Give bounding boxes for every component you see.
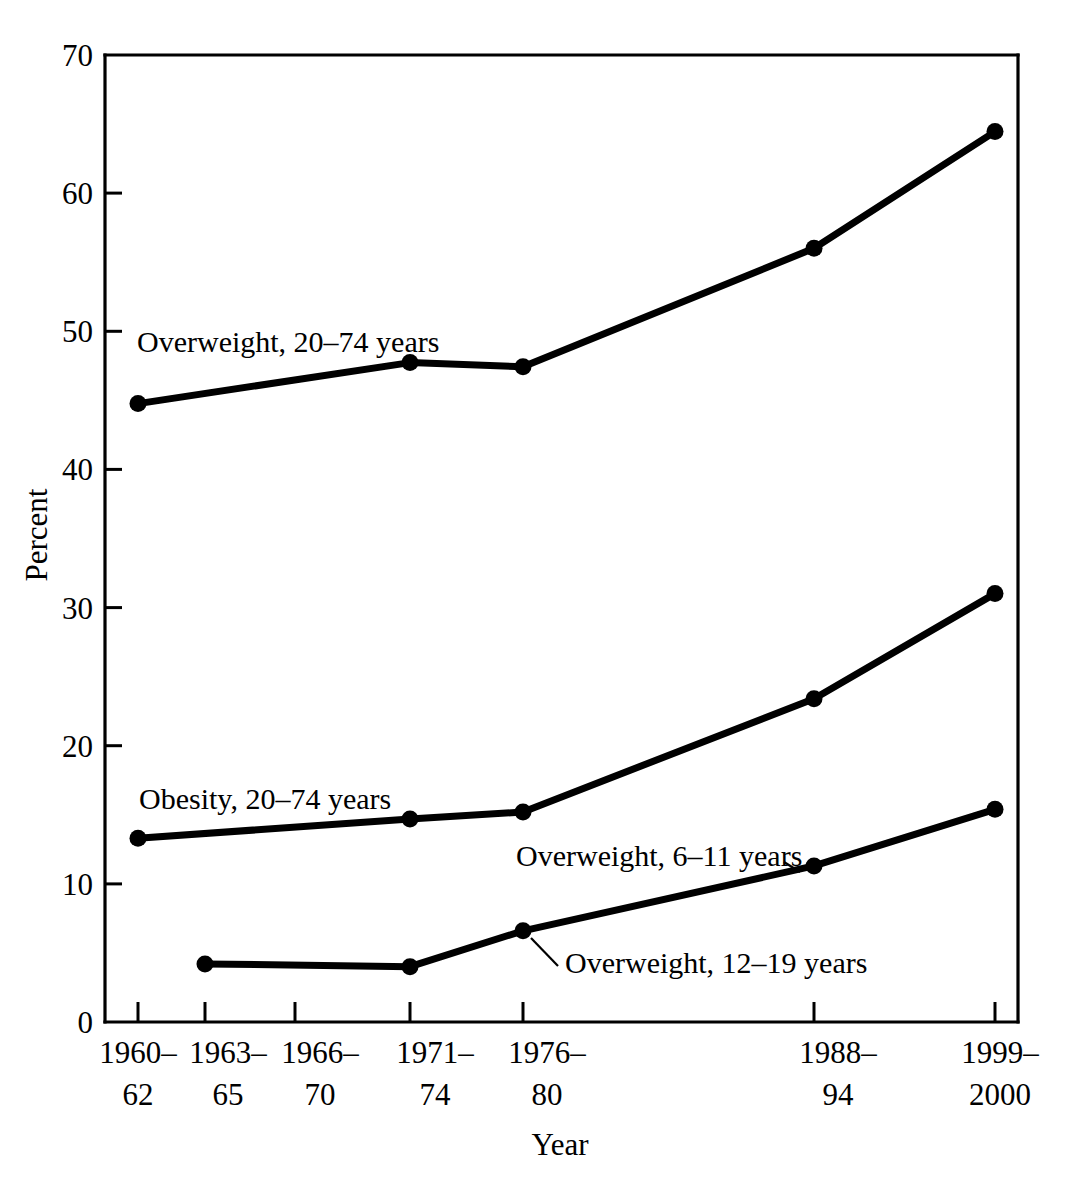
data-point	[515, 922, 532, 939]
figure-container: 70 60 50 40 30 20 10 0 Percent 1960– 62 …	[0, 0, 1067, 1177]
x-tick-label-line1: 1976–	[508, 1035, 586, 1070]
data-point	[806, 690, 823, 707]
x-tick-label-line2: 62	[123, 1077, 154, 1112]
x-tick-label-line2: 74	[420, 1077, 452, 1112]
x-tick-labels: 1960– 62 1963– 65 1966– 70 1971– 74 1976…	[99, 1035, 1039, 1112]
x-tick-label-line1: 1960–	[99, 1035, 177, 1070]
data-point	[197, 955, 214, 972]
data-point	[987, 123, 1004, 140]
y-tick-label: 50	[62, 314, 93, 349]
y-tick-marks	[105, 193, 122, 884]
x-tick-label-line1: 1966–	[281, 1035, 359, 1070]
series-label-obesity-20-74: Obesity, 20–74 years	[139, 782, 391, 815]
data-point	[987, 585, 1004, 602]
data-point	[402, 810, 419, 827]
x-tick-label-line1: 1999–	[961, 1035, 1039, 1070]
y-tick-label: 60	[62, 176, 93, 211]
x-axis-title: Year	[531, 1127, 589, 1162]
x-tick-label-line2: 70	[305, 1077, 336, 1112]
line-chart: 70 60 50 40 30 20 10 0 Percent 1960– 62 …	[0, 0, 1067, 1177]
series-label-overweight-6-11: Overweight, 6–11 years	[516, 839, 802, 872]
data-point	[515, 804, 532, 821]
data-point	[987, 801, 1004, 818]
data-point	[515, 358, 532, 375]
data-point	[806, 240, 823, 257]
data-point	[402, 958, 419, 975]
y-tick-label: 30	[62, 591, 93, 626]
series-overweight-20-74	[130, 123, 1004, 412]
x-tick-label-line2: 80	[532, 1077, 563, 1112]
y-tick-label: 0	[78, 1005, 94, 1040]
y-tick-labels: 70 60 50 40 30 20 10 0	[62, 38, 93, 1040]
data-point	[130, 395, 147, 412]
y-tick-label: 70	[62, 38, 93, 73]
y-tick-label: 10	[62, 867, 93, 902]
y-tick-label: 20	[62, 729, 93, 764]
x-tick-label-line1: 1971–	[396, 1035, 474, 1070]
leader-line-overweight-12-19	[531, 938, 558, 966]
series-label-overweight-12-19: Overweight, 12–19 years	[565, 946, 867, 979]
plot-frame	[105, 55, 1018, 1022]
x-tick-label-line1: 1988–	[799, 1035, 877, 1070]
y-axis-title: Percent	[19, 488, 54, 581]
x-tick-label-line2: 65	[213, 1077, 244, 1112]
data-point	[130, 830, 147, 847]
x-tick-label-line2: 94	[823, 1077, 855, 1112]
x-tick-marks	[138, 1002, 995, 1022]
x-tick-label-line2: 2000	[969, 1077, 1031, 1112]
x-tick-label-line1: 1963–	[189, 1035, 267, 1070]
data-point	[806, 857, 823, 874]
y-tick-label: 40	[62, 452, 93, 487]
series-label-overweight-20-74: Overweight, 20–74 years	[137, 325, 439, 358]
